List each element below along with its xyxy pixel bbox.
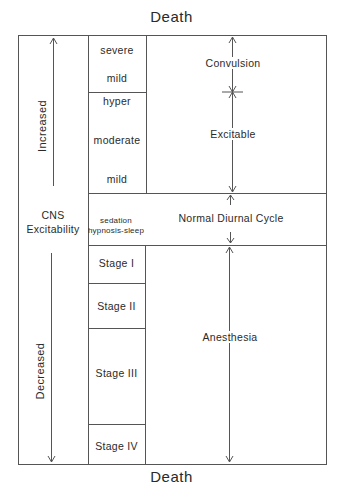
- stage-2-label: Stage II: [88, 300, 145, 312]
- excitable-moderate-label: moderate: [88, 134, 146, 146]
- stage-3-label: Stage III: [88, 367, 145, 379]
- hypnosis-sleep-label: hypnosis-sleep: [86, 226, 146, 236]
- convulsion-severe-label: severe: [88, 44, 146, 56]
- increased-label: Increased: [35, 96, 49, 156]
- excitable-mild-label: mild: [88, 173, 146, 185]
- excitable-state-label: Excitable: [206, 128, 260, 140]
- decreased-label: Decreased: [33, 339, 47, 403]
- stage-1-label: Stage I: [88, 257, 145, 269]
- stage-4-label: Stage IV: [88, 440, 145, 452]
- arrows-layer: [0, 0, 343, 489]
- sedation-hypnosis-label: sedation hypnosis-sleep: [86, 216, 146, 236]
- convulsion-mild-label: mild: [88, 72, 146, 84]
- cns-label-line2: Excitability: [18, 222, 88, 236]
- sedation-label: sedation: [86, 216, 146, 226]
- normal-diurnal-cycle-label: Normal Diurnal Cycle: [170, 212, 292, 224]
- cns-label-line1: CNS: [18, 208, 88, 222]
- anesthesia-state-label: Anesthesia: [201, 331, 259, 343]
- cns-excitability-label: CNS Excitability: [18, 208, 88, 236]
- convulsion-state-label: Convulsion: [200, 57, 266, 69]
- excitable-hyper-label: hyper: [88, 95, 146, 107]
